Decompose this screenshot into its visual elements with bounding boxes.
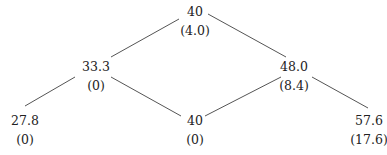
edge-up-updown	[205, 77, 281, 116]
node-value: 33.3	[82, 59, 110, 74]
node-sub-value: (8.4)	[279, 78, 309, 93]
node-value: 48.0	[280, 59, 308, 74]
node-value: 40	[187, 4, 203, 19]
node-sub-value: (4.0)	[180, 23, 210, 38]
node-value: 27.8	[11, 113, 39, 128]
node-value: 40	[187, 113, 203, 128]
node-sub-value: (17.6)	[350, 132, 387, 147]
node-up: 48.0 (8.4)	[279, 59, 309, 93]
binomial-tree-diagram: 40 (4.0) 48.0 (8.4) 33.3 (0) 57.6 (17.6)…	[0, 0, 387, 155]
node-down: 33.3 (0)	[82, 59, 110, 93]
node-up-down: 40 (0)	[186, 113, 204, 147]
node-sub-value: (0)	[87, 78, 105, 93]
edge-root-up	[208, 14, 286, 57]
edge-down-downdown	[25, 77, 75, 106]
node-up-up: 57.6 (17.6)	[350, 113, 387, 147]
edge-root-down	[111, 19, 179, 57]
node-sub-value: (0)	[186, 132, 204, 147]
node-root: 40 (4.0)	[180, 4, 210, 38]
node-sub-value: (0)	[16, 132, 34, 147]
node-value: 57.6	[355, 113, 383, 128]
edge-up-upup	[312, 77, 368, 108]
node-down-down: 27.8 (0)	[11, 113, 39, 147]
edge-down-updown	[111, 77, 181, 116]
